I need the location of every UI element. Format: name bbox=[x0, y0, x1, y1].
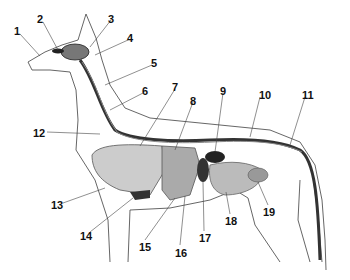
callout-label-14: 14 bbox=[80, 231, 92, 242]
bladder bbox=[248, 168, 268, 182]
liver bbox=[162, 146, 200, 200]
callout-label-1: 1 bbox=[14, 26, 20, 37]
callout-label-5: 5 bbox=[151, 58, 157, 69]
callout-label-3: 3 bbox=[108, 14, 114, 25]
dog-anatomy-diagram bbox=[0, 0, 350, 280]
brain bbox=[61, 44, 89, 60]
callout-label-2: 2 bbox=[37, 14, 43, 25]
lung bbox=[92, 145, 165, 195]
callout-label-4: 4 bbox=[127, 33, 133, 44]
callout-label-18: 18 bbox=[225, 216, 237, 227]
stomach bbox=[197, 158, 209, 182]
callout-label-6: 6 bbox=[142, 86, 148, 97]
callout-label-17: 17 bbox=[199, 233, 211, 244]
callout-label-16: 16 bbox=[175, 248, 187, 259]
callout-label-10: 10 bbox=[259, 90, 271, 101]
callout-label-8: 8 bbox=[190, 96, 196, 107]
callout-label-9: 9 bbox=[220, 86, 226, 97]
callout-label-19: 19 bbox=[263, 207, 275, 218]
olfactory-bulb bbox=[52, 49, 64, 54]
callout-label-13: 13 bbox=[51, 200, 63, 211]
callout-label-12: 12 bbox=[33, 128, 45, 139]
callout-label-7: 7 bbox=[172, 82, 178, 93]
kidney bbox=[205, 151, 225, 163]
callout-label-11: 11 bbox=[302, 90, 314, 101]
callout-label-15: 15 bbox=[139, 242, 151, 253]
